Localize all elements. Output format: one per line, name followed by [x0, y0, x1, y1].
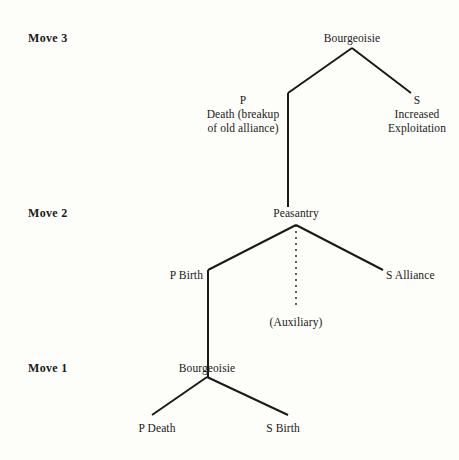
node-label-move1-root: Bourgeoisie [179, 361, 235, 375]
edge-move2-root-to-move2-right [296, 225, 383, 270]
node-label-move3-left-line3: of old alliance) [207, 121, 278, 135]
edge-move1-root-to-move1-left [152, 377, 207, 415]
node-label-move3-left-line1: P [240, 93, 247, 107]
node-label-move1-right: S Birth [266, 421, 300, 435]
edge-move2-root-to-move2-left [208, 225, 296, 270]
node-label-move3-root: Bourgeoisie [324, 31, 380, 45]
move-label-move-2: Move 2 [28, 206, 67, 220]
node-label-move2-root: Peasantry [273, 206, 319, 220]
move-label-move-3: Move 3 [28, 31, 67, 45]
node-label-move2-right: S Alliance [386, 268, 435, 282]
move-label-move-1: Move 1 [28, 361, 67, 375]
edge-move3-root-to-move3-left [288, 48, 352, 93]
diagram-edges-layer [0, 0, 459, 460]
node-label-move2-aux: (Auxiliary) [270, 315, 323, 329]
node-label-move3-right-line3: Exploitation [388, 121, 446, 135]
edge-move1-root-to-move1-right [207, 377, 288, 415]
node-label-move3-right-line2: Increased [395, 107, 440, 121]
diagram-canvas: Move 3Move 2Move 1 BourgeoisiePDeath (br… [0, 0, 459, 460]
node-label-move3-left-line2: Death (breakup [207, 107, 280, 121]
node-label-move3-right-line1: S [414, 93, 421, 107]
edge-move3-root-to-move3-right [352, 48, 411, 93]
node-label-move2-left: P Birth [170, 268, 203, 282]
node-label-move1-left: P Death [138, 421, 175, 435]
